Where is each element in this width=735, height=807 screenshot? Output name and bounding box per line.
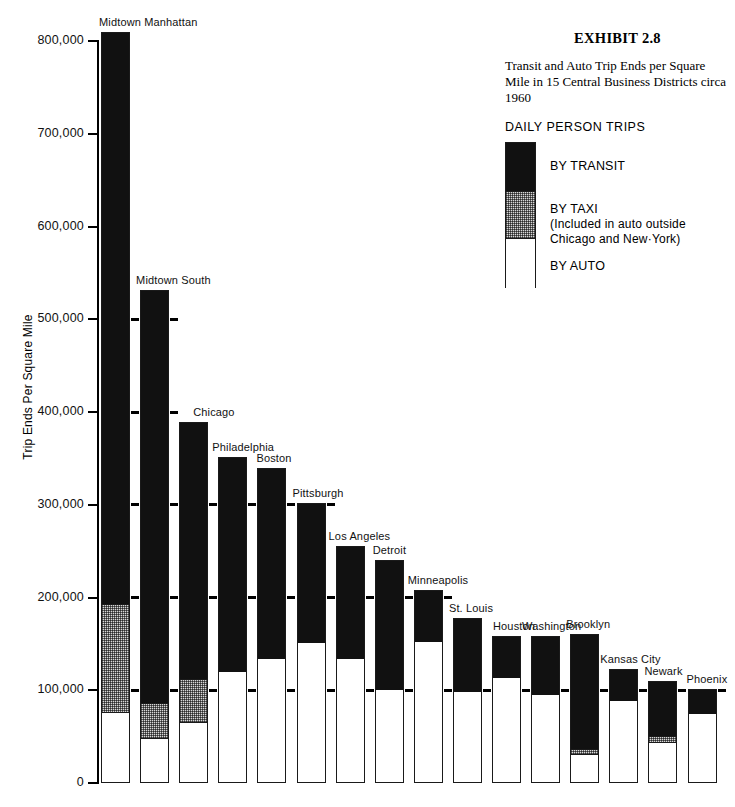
y-axis-tick <box>88 40 99 42</box>
legend-swatch-taxi <box>506 191 535 239</box>
y-axis-tick <box>88 411 99 413</box>
bar-segment-taxi <box>649 736 676 743</box>
bar-segment-transit <box>610 670 637 702</box>
bar-label: Brooklyn <box>566 618 610 630</box>
bar-washington[interactable] <box>531 636 560 783</box>
bar-segment-auto <box>298 643 325 782</box>
legend-label-transit: BY TRANSIT <box>550 159 625 174</box>
legend-label-taxi-text: BY TAXI <box>550 202 598 216</box>
bar-boston[interactable] <box>257 468 286 783</box>
y-axis-tick <box>88 597 99 599</box>
y-axis-tick-label: 500,000 <box>0 311 84 325</box>
bar-houston[interactable] <box>492 636 521 783</box>
y-axis-tick-label-text: 400,000 <box>0 404 84 418</box>
bar-segment-auto <box>102 713 129 782</box>
exhibit-number: EXHIBIT 2.8 <box>505 30 730 47</box>
gridline-dash <box>327 596 335 599</box>
bar-label: Chicago <box>193 406 234 418</box>
gridline-dash <box>131 596 139 599</box>
bar-midtown-south[interactable] <box>140 290 169 783</box>
gridline-dash <box>209 689 217 692</box>
gridline-dash <box>287 689 295 692</box>
bar-minneapolis[interactable] <box>414 590 443 783</box>
bar-los-angeles[interactable] <box>336 546 365 783</box>
bar-segment-taxi <box>180 679 207 723</box>
bar-newark[interactable] <box>648 681 677 783</box>
gridline-dash <box>131 503 139 506</box>
bar-midtown-manhattan[interactable] <box>101 32 130 783</box>
bar-label: Kansas City <box>600 653 660 665</box>
bar-segment-auto <box>454 692 481 782</box>
legend-label-taxi-note: (Included in auto outside Chicago and Ne… <box>550 217 686 246</box>
legend-swatch-auto <box>506 239 535 289</box>
gridline-dash <box>287 596 295 599</box>
legend-label-transit-text: BY TRANSIT <box>550 159 625 173</box>
y-axis-tick-label-text: 200,000 <box>0 590 84 604</box>
y-axis-tick-label: 300,000 <box>0 497 84 511</box>
y-axis-tick <box>88 133 99 135</box>
gridline-dash <box>678 689 686 692</box>
gridline-dash <box>209 596 217 599</box>
bar-phoenix[interactable] <box>688 689 717 783</box>
bar-st-louis[interactable] <box>453 618 482 783</box>
gridline-dash <box>131 411 139 414</box>
bar-segment-transit <box>532 637 559 695</box>
bar-detroit[interactable] <box>375 560 404 783</box>
bar-segment-transit <box>493 637 520 679</box>
gridline-dash <box>131 318 139 321</box>
bar-segment-transit <box>219 458 246 671</box>
y-axis-tick-label: 400,000 <box>0 404 84 418</box>
y-axis-title: Trip Ends Per Square Mile <box>21 307 35 467</box>
y-axis-tick-label-text: 800,000 <box>0 33 84 47</box>
gridline-dash <box>287 503 295 506</box>
y-axis-tick-label-text: 500,000 <box>0 311 84 325</box>
bar-chicago[interactable] <box>179 422 208 783</box>
legend-label-taxi: BY TAXI (Included in auto outside Chicag… <box>550 202 733 247</box>
gridline-dash <box>170 596 178 599</box>
bar-segment-transit <box>649 682 676 736</box>
y-axis-tick-label-text: 600,000 <box>0 219 84 233</box>
gridline-dash <box>170 411 178 414</box>
bar-segment-transit <box>180 423 207 679</box>
bar-segment-transit <box>141 291 168 703</box>
gridline-dash <box>327 503 335 506</box>
bar-label: Boston <box>256 452 291 464</box>
gridline-dash <box>718 689 726 692</box>
y-axis-tick-label: 600,000 <box>0 219 84 233</box>
legend-body: BY TRANSIT BY TAXI (Included in auto out… <box>505 142 733 288</box>
bar-label: Pittsburgh <box>293 487 344 499</box>
gridline-dash <box>248 596 256 599</box>
gridline-dash <box>366 689 374 692</box>
bar-label: Midtown Manhattan <box>99 16 198 28</box>
bar-brooklyn[interactable] <box>570 634 599 783</box>
bar-segment-transit <box>571 635 598 749</box>
y-axis-tick-label-text: 0 <box>0 775 84 789</box>
legend-label-auto: BY AUTO <box>550 259 605 274</box>
gridline-dash <box>561 689 569 692</box>
y-axis-tick-label-text: 100,000 <box>0 682 84 696</box>
bar-segment-transit <box>376 561 403 690</box>
gridline-dash <box>483 689 491 692</box>
bar-kansas-city[interactable] <box>609 669 638 783</box>
legend-swatch-transit <box>506 143 535 191</box>
bar-segment-taxi <box>102 604 129 713</box>
gridline-dash <box>405 689 413 692</box>
y-axis-tick <box>88 318 99 320</box>
bar-segment-transit <box>454 619 481 692</box>
legend-label-auto-text: BY AUTO <box>550 259 605 273</box>
y-axis-tick <box>88 504 99 506</box>
gridline-dash <box>600 689 608 692</box>
gridline-dash <box>248 689 256 692</box>
bar-segment-auto <box>141 739 168 782</box>
bar-segment-transit <box>102 33 129 604</box>
gridline-dash <box>170 503 178 506</box>
y-axis-tick <box>88 226 99 228</box>
y-axis-tick-label-text: 300,000 <box>0 497 84 511</box>
bar-pittsburgh[interactable] <box>297 503 326 783</box>
bar-segment-transit <box>258 469 285 659</box>
gridline-dash <box>248 503 256 506</box>
gridline-dash <box>366 596 374 599</box>
y-axis-tick-label: 800,000 <box>0 33 84 47</box>
gridline-dash <box>327 689 335 692</box>
bar-philadelphia[interactable] <box>218 457 247 783</box>
